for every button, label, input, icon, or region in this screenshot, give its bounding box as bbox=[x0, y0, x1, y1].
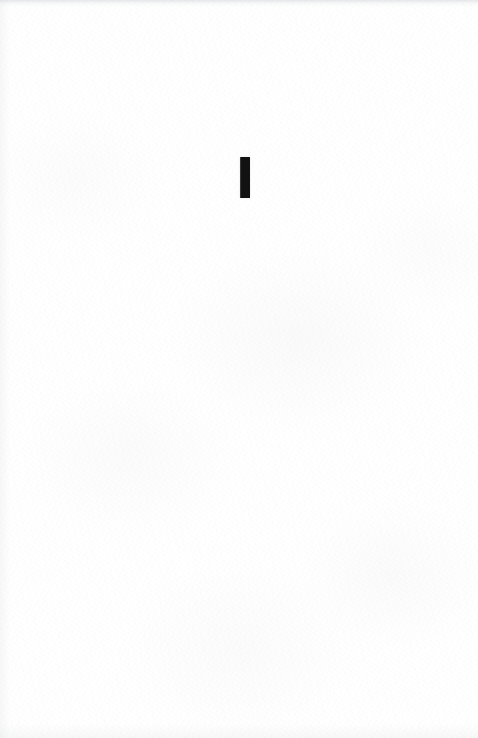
scan-edge-shadow-bottom bbox=[0, 724, 478, 738]
vertical-stroke-glyph bbox=[240, 157, 250, 198]
scan-edge-shadow-left bbox=[0, 0, 10, 738]
scanned-page bbox=[0, 0, 478, 738]
scan-edge-shadow-top bbox=[0, 0, 478, 7]
